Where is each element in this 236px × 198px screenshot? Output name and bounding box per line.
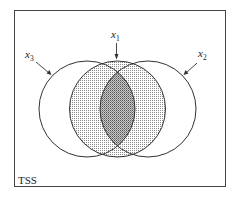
venn-diagram: x1 x3 x2 TSS (0, 0, 236, 198)
frame-label-tss: TSS (18, 174, 37, 186)
